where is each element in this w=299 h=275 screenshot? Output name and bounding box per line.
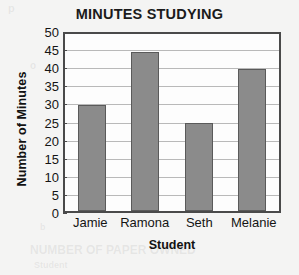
y-tick-mark (63, 86, 67, 87)
y-tick-mark (63, 213, 67, 214)
y-tick-label: 30 (45, 97, 59, 112)
bar-cell (172, 34, 226, 211)
scan-bleed-text: Student (34, 260, 68, 270)
y-tick-label: 40 (45, 61, 59, 76)
x-tick-label: Ramona (118, 215, 173, 230)
bar-chart: p o r b NUMBER OF PAPER OWNED Student MI… (0, 0, 299, 275)
y-tick-label: 10 (45, 169, 59, 184)
bar-series (65, 34, 279, 211)
plot-area (63, 32, 281, 213)
y-tick-label: 45 (45, 43, 59, 58)
bar-jamie (78, 105, 106, 211)
y-tick-label: 20 (45, 133, 59, 148)
bar-cell (226, 34, 280, 211)
y-tick-mark (63, 50, 67, 51)
chart-title: MINUTES STUDYING (0, 6, 299, 22)
y-tick-mark (63, 32, 67, 33)
x-axis-tick-labels: JamieRamonaSethMelanie (63, 215, 281, 230)
bar-ramona (131, 52, 159, 211)
y-axis-title: Number of Minutes (15, 49, 29, 209)
y-tick-label: 15 (45, 151, 59, 166)
y-tick-label: 0 (52, 206, 59, 221)
y-tick-label: 5 (52, 187, 59, 202)
bar-melanie (238, 69, 266, 211)
y-tick-label: 35 (45, 79, 59, 94)
y-tick-mark (63, 141, 67, 142)
bar-seth (185, 123, 213, 212)
x-tick-label: Jamie (63, 215, 118, 230)
y-tick-mark (63, 159, 67, 160)
y-tick-mark (63, 104, 67, 105)
x-tick-label: Seth (172, 215, 227, 230)
bar-cell (119, 34, 173, 211)
y-tick-mark (63, 123, 67, 124)
scan-bleed-text: b (40, 222, 46, 232)
y-axis-tick-labels: 50454035302520151050 (33, 32, 59, 213)
x-tick-label: Melanie (227, 215, 282, 230)
bar-cell (65, 34, 119, 211)
y-tick-mark (63, 68, 67, 69)
y-tick-label: 50 (45, 25, 59, 40)
x-axis-title: Student (63, 238, 281, 252)
y-tick-label: 25 (45, 115, 59, 130)
y-tick-mark (63, 177, 67, 178)
y-tick-mark (63, 195, 67, 196)
